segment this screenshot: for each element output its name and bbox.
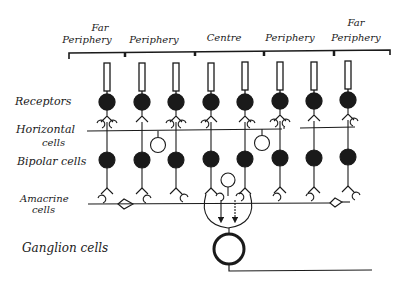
label-horizontal-line2: cells xyxy=(42,137,65,148)
layer-labels: Receptors Horizontal cells Bipolar cells… xyxy=(14,95,108,255)
receptor-4 xyxy=(203,63,219,110)
receptor-layer xyxy=(99,61,356,110)
region-centre: Centre xyxy=(207,32,242,43)
receptor-1 xyxy=(99,63,115,110)
region-far-periphery-right-line2: Periphery xyxy=(330,32,381,43)
receptor-2 xyxy=(134,63,150,110)
region-periphery-left: Periphery xyxy=(128,34,179,45)
region-periphery-right: Periphery xyxy=(264,32,315,43)
label-ganglion: Ganglion cells xyxy=(22,241,108,255)
horizontal-cell-layer xyxy=(87,127,355,153)
receptor-7 xyxy=(306,62,322,109)
ganglion-cell xyxy=(214,228,372,271)
label-horizontal-line1: Horizontal xyxy=(15,123,75,136)
label-bipolar: Bipolar cells xyxy=(16,155,87,168)
receptor-8 xyxy=(340,61,356,108)
receptor-synapses xyxy=(97,108,358,128)
region-far-periphery-left-line1: Far xyxy=(90,22,109,33)
region-labels: Far Periphery Periphery Centre Periphery… xyxy=(61,17,381,45)
label-amacrine-line2: cells xyxy=(32,204,55,215)
retina-diagram: Far Periphery Periphery Centre Periphery… xyxy=(0,0,402,285)
region-far-periphery-left-line2: Periphery xyxy=(61,34,112,45)
region-far-periphery-right-line1: Far xyxy=(346,17,365,28)
receptor-6 xyxy=(272,62,288,109)
label-receptors: Receptors xyxy=(14,95,72,108)
region-bracket xyxy=(69,50,390,59)
receptor-3 xyxy=(168,63,184,110)
amacrine-layer xyxy=(88,173,360,228)
label-amacrine-line1: Amacrine xyxy=(19,193,69,204)
receptor-5 xyxy=(237,62,253,110)
